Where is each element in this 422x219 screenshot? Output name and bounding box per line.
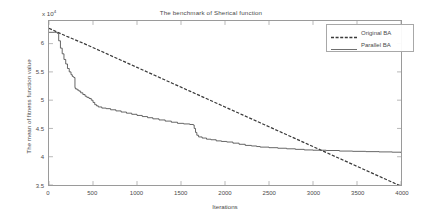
legend-label: Original BA [361,30,391,36]
x-tick-label: 1000 [117,190,157,196]
x-tick-label: 500 [72,190,112,196]
legend-line-sample [331,28,357,37]
x-axis-title: Iterations [48,203,402,210]
x-tick-label: 2000 [205,190,245,196]
y-tick-label: 3.5 [18,183,44,189]
legend-item-original-ba[interactable]: Original BA [327,27,415,38]
x-tick-label: 1500 [161,190,201,196]
x-tick-label: 0 [28,190,68,196]
legend-item-parallel-ba[interactable]: Parallel BA [327,39,415,50]
x-tick-label: 4000 [382,190,422,196]
legend-line-sample [331,40,357,49]
legend-box: Original BAParallel BA [326,24,414,52]
legend-label: Parallel BA [361,42,391,48]
x-tick-label: 3500 [338,190,378,196]
x-tick-label: 3000 [294,190,334,196]
figure-container: The benchmark of Sherical function x 104… [0,0,422,219]
x-tick-label: 2500 [249,190,289,196]
y-axis-title: The mean of fitness function value [25,32,32,182]
